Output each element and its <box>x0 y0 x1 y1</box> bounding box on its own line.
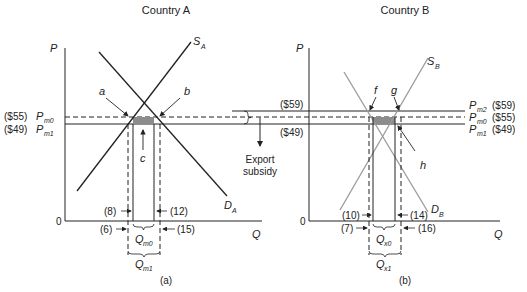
y-axis-label-b: P <box>296 42 304 54</box>
left-price-59-b: ($59) <box>280 99 303 110</box>
panel-b-title: Country B <box>381 4 430 16</box>
subsidy-label-line1: Export <box>246 154 275 165</box>
brace-qm0-a <box>133 224 154 230</box>
brace-qx1-b <box>369 251 401 257</box>
point-label-c: c <box>140 152 146 164</box>
x-axis-label-a: Q <box>252 228 261 240</box>
qty-label-6-a: (6) <box>100 224 112 235</box>
arrow-point-h <box>398 126 415 151</box>
brace-qm0-sub: m0 <box>143 240 153 247</box>
supply-label-b: S <box>427 55 435 67</box>
qty-label-16-b: (16) <box>418 223 436 234</box>
qty-label-10-b: (10) <box>342 210 360 221</box>
qty-label-14-b: (14) <box>410 210 428 221</box>
price-value-49-a: ($49) <box>4 124 27 135</box>
y-axis-label-a: P <box>50 42 58 54</box>
panel-b-caption: (b) <box>399 275 411 286</box>
qty-label-12-a: (12) <box>170 206 188 217</box>
price-symbol-pm2-b: P <box>469 99 477 111</box>
supply-label-a: S <box>193 35 201 47</box>
demand-label-b: D <box>431 203 439 215</box>
price-sub-pm0-b: m0 <box>477 118 487 125</box>
price-symbol-pm0-a: P <box>36 110 44 122</box>
origin-label-b: 0 <box>300 216 306 227</box>
supply-sub-a: A <box>200 43 206 50</box>
export-subsidy-annotation: Export subsidy <box>243 111 277 177</box>
arrow-point-a <box>106 98 128 116</box>
supply-sub-b: B <box>435 63 440 70</box>
supply-curve-b <box>340 58 428 210</box>
price-symbol-pm0-b: P <box>469 111 477 123</box>
demand-label-a: D <box>224 199 232 211</box>
point-label-b: b <box>184 85 190 97</box>
arrow-point-g <box>394 97 399 110</box>
price-symbol-pm1-a: P <box>36 123 44 135</box>
qty-label-15-a: (15) <box>177 224 195 235</box>
demand-sub-a: A <box>231 207 237 214</box>
arrow-point-f <box>370 97 376 110</box>
price-sub-pm1-a: m1 <box>44 130 54 137</box>
demand-curve-b <box>344 72 428 212</box>
arrow-point-b <box>160 98 180 116</box>
left-price-49-b: ($49) <box>280 127 303 138</box>
brace-qm1-sub: m1 <box>143 265 153 272</box>
price-value-55-b: ($55) <box>492 112 515 123</box>
brace-qx0-b <box>373 224 395 230</box>
qty-label-7-b: (7) <box>341 223 353 234</box>
price-value-55-a: ($55) <box>4 111 27 122</box>
price-sub-pm2-b: m2 <box>477 106 487 113</box>
panel-a-title: Country A <box>142 4 191 16</box>
x-axis-label-b: Q <box>494 228 503 240</box>
panel-country-a: Country A P 0 Q ($55) P m0 ($49) P m1 S … <box>4 4 262 286</box>
export-subsidy-diagram: Country A P 0 Q ($55) P m0 ($49) P m1 S … <box>0 0 527 292</box>
point-label-f: f <box>374 84 378 96</box>
price-sub-pm0-a: m0 <box>44 117 54 124</box>
brace-qm1-a <box>128 251 160 257</box>
qty-label-8-a: (8) <box>104 206 116 217</box>
price-sub-pm1-b: m1 <box>477 130 487 137</box>
price-symbol-pm1-b: P <box>469 123 477 135</box>
origin-label-a: 0 <box>56 216 62 227</box>
brace-qx1-sub: x1 <box>383 265 392 272</box>
subsidy-label-line2: subsidy <box>243 166 277 177</box>
shaded-area-a <box>133 117 154 124</box>
brace-qx0-sub: x0 <box>383 240 392 247</box>
point-label-g: g <box>391 84 398 96</box>
price-value-59-b: ($59) <box>492 100 515 111</box>
panel-country-b: Country B P 0 Q ($59) ($49) P m2 ($59) P… <box>232 4 515 286</box>
point-label-a: a <box>99 85 105 97</box>
point-label-h: h <box>420 159 426 171</box>
panel-a-caption: (a) <box>160 275 172 286</box>
price-value-49-b: ($49) <box>492 124 515 135</box>
demand-sub-b: B <box>439 211 444 218</box>
